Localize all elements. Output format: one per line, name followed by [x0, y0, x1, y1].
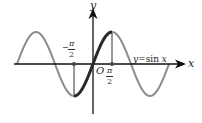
tick-pos-numerator: π [106, 67, 113, 77]
sine-graph: y x O y=sin x − π 2 π 2 [0, 0, 202, 123]
tick-neg-denominator: 2 [68, 50, 75, 59]
tick-label-pos-half-pi: π 2 [106, 67, 113, 86]
tick-neg-numerator: π [68, 40, 75, 50]
tick-pos-denominator: 2 [106, 77, 113, 86]
point-neg-half-pi [72, 62, 76, 66]
x-axis-label: x [188, 58, 194, 69]
plot-area [0, 0, 202, 123]
origin-label: O [96, 66, 104, 76]
y-axis-label: y [90, 0, 96, 11]
curve-label: y=sin x [133, 55, 167, 64]
tick-label-neg-half-pi: π 2 [68, 40, 75, 59]
